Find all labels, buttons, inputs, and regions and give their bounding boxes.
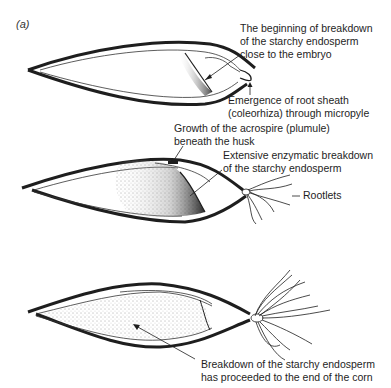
label-enzymatic-line-2: of the starchy endosperm — [223, 162, 341, 175]
label-breakdown-start-line-1: The beginning of breakdown — [240, 22, 373, 35]
label-acrospire-line-2: beneath the husk — [174, 135, 255, 148]
label-rootlets: Rootlets — [303, 189, 342, 202]
label-root-sheath-line-1: Emergence of root sheath — [228, 94, 349, 107]
label-complete-line-2: has proceeded to the end of the corn — [201, 371, 373, 384]
label-breakdown-start-line-2: of the starchy endosperm — [240, 35, 358, 48]
label-enzymatic-line-1: Extensive enzymatic breakdown — [223, 149, 373, 162]
label-breakdown-start-line-3: close to the embryo — [240, 48, 332, 61]
panel-label: (a) — [16, 18, 29, 30]
label-complete-line-1: Breakdown of the starchy endosperm — [201, 358, 375, 371]
label-acrospire-line-1: Growth of the acrospire (plumule) — [174, 122, 330, 135]
grain-stage-3 — [28, 270, 330, 360]
grain-stage-1 — [28, 42, 255, 104]
rootlets-stage-2 — [242, 175, 292, 224]
rootlets-stage-3 — [251, 270, 330, 360]
barley-germination-diagram: (a) The beginning of breakdown of the st… — [0, 0, 391, 388]
label-root-sheath-line-2: (coleorhiza) through micropyle — [228, 107, 369, 120]
